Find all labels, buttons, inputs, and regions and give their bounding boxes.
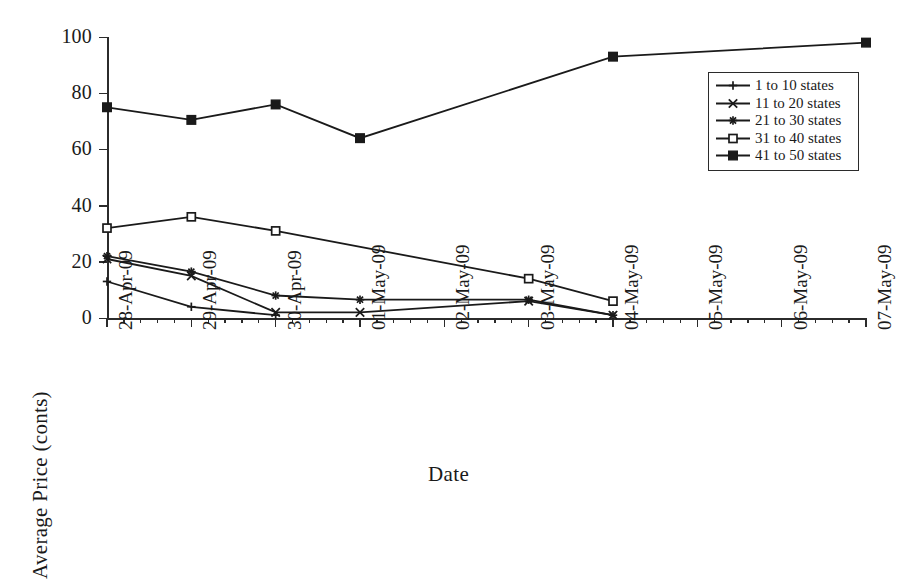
x-tick-major <box>612 318 613 327</box>
x-tick-minor <box>326 318 327 323</box>
x-tick-minor <box>815 318 816 323</box>
x-axis-title: Date <box>0 462 897 487</box>
asterisk-marker <box>273 292 279 298</box>
x-marker <box>271 308 279 316</box>
filled-square-marker <box>609 52 618 61</box>
filled-square-marker <box>356 134 365 143</box>
x-marker <box>187 272 195 280</box>
x-tick-minor <box>646 318 647 323</box>
y-tick-label: 80 <box>0 82 92 102</box>
x-tick-minor <box>309 318 310 323</box>
x-marker <box>524 297 532 305</box>
x-tick-major <box>697 318 698 327</box>
x-tick-label: 29-Apr-09 <box>200 330 280 349</box>
y-tick-label: 100 <box>0 26 92 46</box>
y-tick <box>99 37 108 39</box>
filled-square-marker <box>729 151 738 160</box>
open-square-marker <box>187 213 195 221</box>
legend-item: 11 to 20 states <box>714 95 853 113</box>
x-tick-minor <box>663 318 664 323</box>
asterisk-marker <box>526 297 532 303</box>
x-tick-label: 04-May-09 <box>622 330 707 349</box>
x-marker <box>271 308 279 316</box>
asterisk-marker <box>188 269 194 275</box>
y-tick <box>99 261 108 263</box>
x-tick-minor <box>764 318 765 323</box>
x-tick-minor <box>562 318 563 323</box>
x-tick-minor <box>848 318 849 323</box>
x-tick-major <box>359 318 360 327</box>
asterisk-marker <box>357 297 363 303</box>
x-marker <box>356 308 364 316</box>
open-square-marker <box>729 134 737 142</box>
x-tick-minor <box>427 318 428 323</box>
x-tick-minor <box>730 318 731 323</box>
x-tick-minor <box>258 318 259 323</box>
x-tick-minor <box>174 318 175 323</box>
y-tick <box>99 93 108 95</box>
x-marker <box>187 272 195 280</box>
x-tick-label: 05-May-09 <box>706 330 791 349</box>
asterisk-marker <box>526 297 532 303</box>
y-axis-line <box>107 37 109 319</box>
y-tick <box>99 149 108 151</box>
x-tick-label: 06-May-09 <box>791 330 876 349</box>
x-tick-label: 30-Apr-09 <box>285 330 365 349</box>
open-square-marker <box>525 275 533 283</box>
x-tick-minor <box>511 318 512 323</box>
x-tick-minor <box>680 318 681 323</box>
filled-square-marker <box>271 100 280 109</box>
x-tick-minor <box>747 318 748 323</box>
x-tick-minor <box>393 318 394 323</box>
legend-label: 11 to 20 states <box>752 96 841 111</box>
x-tick-label: 28-Apr-09 <box>116 330 196 349</box>
x-tick-minor <box>595 318 596 323</box>
legend-label: 1 to 10 states <box>752 78 834 93</box>
legend-marker-asterisk-icon <box>714 112 752 129</box>
asterisk-marker <box>273 292 279 298</box>
open-square-marker <box>609 297 617 305</box>
x-tick-minor <box>410 318 411 323</box>
y-tick-label: 40 <box>0 195 92 215</box>
x-tick-label: 01-May-09 <box>369 330 454 349</box>
x-tick-major <box>106 318 107 327</box>
open-square-marker <box>272 227 280 235</box>
x-tick-minor <box>157 318 158 323</box>
legend-label: 41 to 50 states <box>752 148 841 163</box>
legend-item: 41 to 50 states <box>714 147 853 165</box>
filled-square-marker <box>187 116 196 125</box>
legend-label: 31 to 40 states <box>752 131 841 146</box>
legend-item: 31 to 40 states <box>714 130 853 148</box>
legend-marker-open-square-icon <box>714 130 752 147</box>
x-tick-minor <box>342 318 343 323</box>
legend-label: 21 to 30 states <box>752 113 841 128</box>
legend-marker-plus-icon <box>714 77 752 94</box>
x-tick-minor <box>477 318 478 323</box>
x-tick-major <box>191 318 192 327</box>
y-tick-label: 20 <box>0 251 92 271</box>
x-tick-major <box>781 318 782 327</box>
x-tick-label: 02-May-09 <box>453 330 538 349</box>
x-tick-major <box>275 318 276 327</box>
x-tick-label: 03-May-09 <box>538 330 623 349</box>
asterisk-marker <box>188 269 194 275</box>
x-tick-minor <box>832 318 833 323</box>
asterisk-marker <box>357 297 363 303</box>
legend-item: 1 to 10 states <box>714 77 853 95</box>
x-tick-minor <box>241 318 242 323</box>
x-tick-minor <box>224 318 225 323</box>
x-tick-major <box>528 318 529 327</box>
legend-item: 21 to 30 states <box>714 112 853 130</box>
y-tick-label: 0 <box>0 307 92 327</box>
legend-marker-filled-square-icon <box>714 147 752 164</box>
x-marker <box>356 308 364 316</box>
x-tick-major <box>444 318 445 327</box>
legend: 1 to 10 states11 to 20 states21 to 30 st… <box>708 72 859 171</box>
x-axis-line <box>107 318 867 320</box>
y-tick <box>99 205 108 207</box>
x-tick-major <box>865 318 866 327</box>
filled-square-marker <box>862 38 871 47</box>
x-tick-minor <box>579 318 580 323</box>
y-tick-label: 60 <box>0 138 92 158</box>
